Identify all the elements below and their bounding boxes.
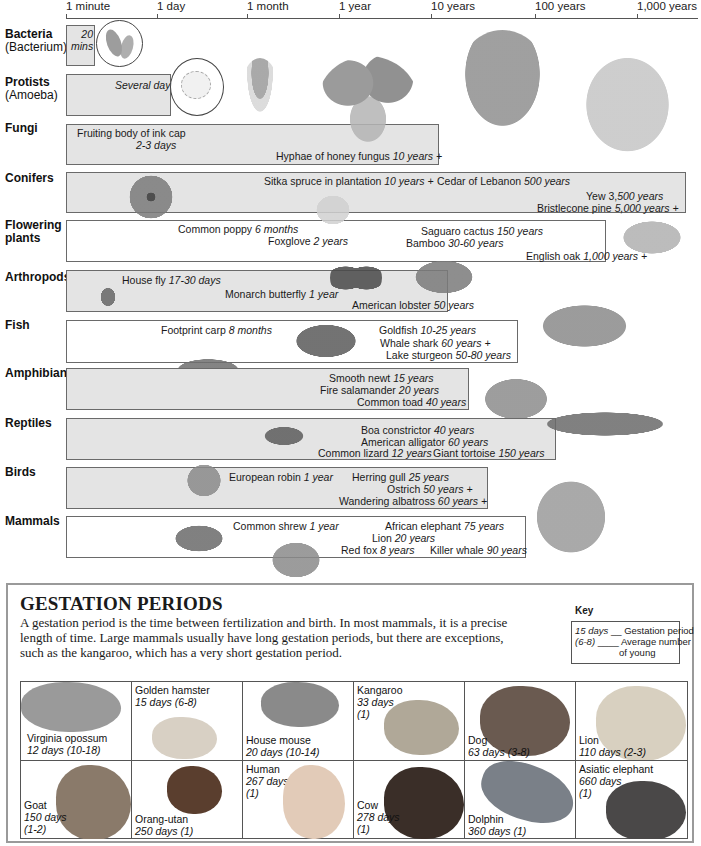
ink-cap-mushroom-icon bbox=[240, 58, 280, 133]
entry-value: 10-25 years bbox=[420, 324, 475, 336]
cow-icon bbox=[384, 767, 464, 839]
gestation-cell-dog: Dog 63 days (3-8) bbox=[465, 682, 576, 761]
poppy-icon bbox=[126, 172, 176, 222]
entry-name: Bristlecone pine bbox=[537, 202, 612, 214]
entry-value: 5,000 years + bbox=[615, 202, 679, 214]
animal-gestation: 360 days (1) bbox=[468, 825, 526, 837]
animal-gestation: 15 days (6-8) bbox=[135, 696, 197, 708]
entry-value: 60 years + bbox=[438, 495, 487, 507]
robin-icon bbox=[175, 453, 233, 508]
key-title: Key bbox=[575, 605, 593, 616]
row-label-mammals: Mammals bbox=[5, 515, 60, 528]
key-example-days: 15 days bbox=[575, 625, 608, 636]
row-label-conifers: Conifers bbox=[5, 172, 54, 185]
key-box: 15 days __ Gestation period (6-8) ____ A… bbox=[571, 621, 680, 664]
tick-100-years: 100 years bbox=[535, 0, 586, 12]
animal-young: (1) bbox=[246, 787, 259, 799]
entry-name: American lobster bbox=[352, 299, 431, 311]
gestation-cell-dolphin: Dolphin 360 days (1) bbox=[465, 761, 576, 839]
foxglove-icon bbox=[310, 190, 356, 230]
animal-name: Goat bbox=[24, 799, 47, 811]
row-label-protists: Protists (Amoeba) bbox=[5, 76, 58, 102]
entry-name: Boa constrictor bbox=[361, 424, 431, 436]
mammals-entry-red-fox: Red fox 8 years bbox=[341, 544, 415, 556]
elephant-icon bbox=[518, 462, 624, 572]
entry-value: 12 years bbox=[392, 447, 432, 459]
key-young-label-cont: of young bbox=[575, 647, 655, 658]
butterfly-icon bbox=[330, 255, 382, 301]
entry-name: Wandering albatross bbox=[339, 495, 435, 507]
entry-value: 60 years + bbox=[441, 337, 490, 349]
kangaroo-icon bbox=[384, 700, 459, 755]
entry-value: 10 years + bbox=[393, 150, 442, 162]
entry-value: 6 months bbox=[255, 223, 298, 235]
gestation-cell-goat: Goat 150 days (1-2) bbox=[21, 761, 132, 839]
lobster-icon bbox=[400, 252, 488, 302]
animal-name: Human bbox=[246, 763, 280, 775]
fish-entry-carp: Footprint carp 8 months bbox=[161, 324, 272, 336]
entry-value: 90 years bbox=[487, 544, 527, 556]
bacterium-illustration bbox=[96, 20, 143, 67]
mouse-icon bbox=[261, 682, 339, 727]
key-line-young: (6-8) ____ Average number bbox=[575, 636, 676, 647]
snake-icon bbox=[218, 405, 350, 467]
house-fly-icon bbox=[88, 272, 128, 322]
animal-young: (1) bbox=[579, 787, 592, 799]
human-icon bbox=[283, 765, 345, 839]
animal-name: Asiatic elephant bbox=[579, 763, 653, 775]
bacterium-icon bbox=[118, 34, 136, 60]
entry-name: English oak bbox=[526, 250, 580, 262]
birds-entry-albatross: Wandering albatross 60 years + bbox=[339, 495, 487, 507]
key-line-days: 15 days __ Gestation period bbox=[575, 625, 676, 636]
bacteria-value: 20 bbox=[79, 28, 93, 40]
entry-name: Smooth newt bbox=[329, 372, 390, 384]
amphibians-entry-toad: Common toad 40 years bbox=[357, 396, 466, 408]
animal-gestation: 12 days (10-18) bbox=[27, 744, 101, 756]
row-label-bacteria: Bacteria (Bacterium) bbox=[5, 28, 67, 54]
entry-name: Cedar of Lebanon bbox=[437, 175, 521, 187]
entry-value: 500 years bbox=[524, 175, 570, 187]
entry-name: Yew 3, bbox=[586, 190, 617, 202]
animal-gestation: 250 days (1) bbox=[135, 825, 193, 837]
fox-icon bbox=[255, 530, 337, 590]
fish-entry-sturgeon: Lake sturgeon 50-80 years bbox=[386, 349, 511, 361]
entry-name: Foxglove bbox=[268, 235, 311, 247]
yew-tree-icon bbox=[575, 56, 680, 164]
entry-name: Sitka spruce in plantation bbox=[264, 175, 381, 187]
animal-young: (1-2) bbox=[24, 823, 46, 835]
amphibians-entry-salamander: Fire salamander 20 years bbox=[320, 384, 439, 396]
entry-name: Lake sturgeon bbox=[386, 349, 453, 361]
mammals-entry-african-elephant: African elephant 75 years bbox=[385, 520, 504, 532]
entry-value: 40 years bbox=[434, 424, 474, 436]
tick-1-day: 1 day bbox=[157, 0, 185, 12]
entry-name: Giant tortoise bbox=[433, 447, 495, 459]
entry-value: 2-3 days bbox=[136, 139, 176, 151]
row-label-arthropods: Arthropods bbox=[5, 271, 70, 284]
entry-name: Monarch butterfly bbox=[225, 288, 306, 300]
animal-gestation: 110 days (2-3) bbox=[579, 746, 646, 758]
entry-name: Whale shark bbox=[380, 337, 438, 349]
goat-icon bbox=[56, 765, 131, 839]
gestation-cell-cow: Cow 278 days (1) bbox=[354, 761, 465, 839]
birds-entry-ostrich: Ostrich 50 years + bbox=[387, 483, 473, 495]
amoeba-illustration bbox=[170, 58, 224, 116]
entry-name: Fire salamander bbox=[320, 384, 396, 396]
gestation-cell-asiatic-elephant: Asiatic elephant 660 days (1) bbox=[576, 761, 687, 839]
entry-value: 500 years bbox=[617, 190, 663, 202]
entry-name: European robin bbox=[229, 471, 301, 483]
animal-gestation: 33 days bbox=[357, 696, 394, 708]
row-label-birds: Birds bbox=[5, 466, 36, 479]
reptiles-entry-tortoise: Giant tortoise 150 years bbox=[433, 447, 545, 459]
entry-name: Saguaro cactus bbox=[421, 225, 494, 237]
reptiles-entry-boa: Boa constrictor 40 years bbox=[361, 424, 474, 436]
row-label-text: Protists bbox=[5, 75, 50, 89]
animal-name: Golden hamster bbox=[135, 684, 210, 696]
entry-value: 17-30 days bbox=[169, 274, 221, 286]
row-label-fungi: Fungi bbox=[5, 122, 38, 135]
conifers-entry-cedar: Cedar of Lebanon 500 years bbox=[437, 175, 570, 187]
fungi-entry-honey-fungus: Hyphae of honey fungus 10 years + bbox=[276, 150, 442, 162]
conifers-entry-yew: Yew 3,500 years bbox=[586, 190, 663, 202]
orang-utan-icon bbox=[167, 766, 222, 814]
animal-name: Dolphin bbox=[468, 813, 504, 825]
fungi-entry-ink-cap-value: 2-3 days bbox=[136, 139, 176, 151]
